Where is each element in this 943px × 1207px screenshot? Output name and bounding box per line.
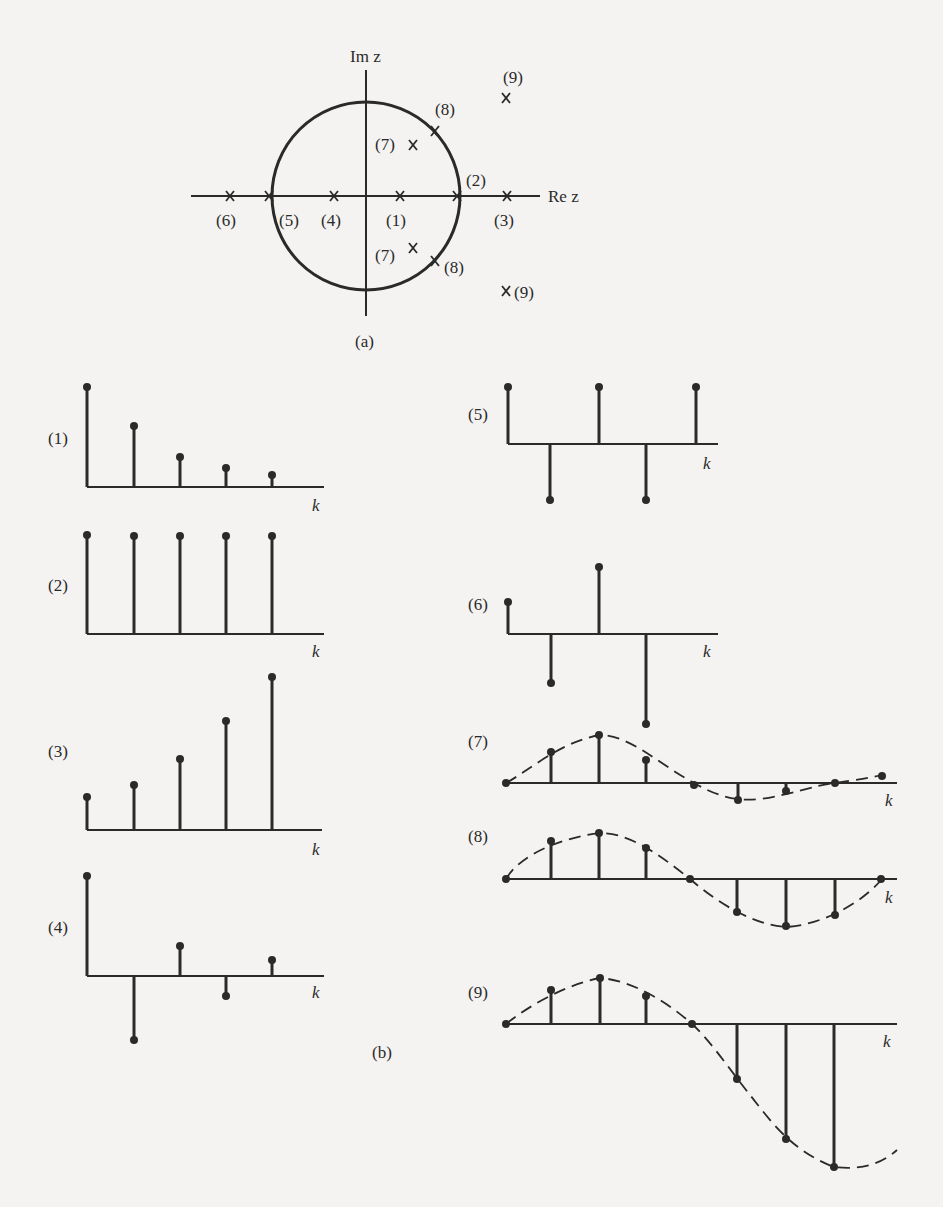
plot-label-3: (3) <box>48 742 68 761</box>
pole-label-9-upper: (9) <box>503 68 523 87</box>
plot-label-4: (4) <box>48 918 68 937</box>
pole-label-8-lower: (8) <box>444 258 464 277</box>
plot-label-7: (7) <box>468 732 488 751</box>
stem-plot-9: (9) k <box>468 974 897 1171</box>
k-axis-label: k <box>703 454 711 473</box>
k-axis-label: k <box>312 642 320 661</box>
z-plane-diagram: Im z Re z (a) (1) (2) (3) (4) (5) (6) ( <box>191 47 579 351</box>
pole-label-2: (2) <box>466 171 486 190</box>
stem-plot-3: (3) k <box>48 673 322 859</box>
pole-label-6: (6) <box>216 211 236 230</box>
k-axis-label: k <box>312 983 320 1002</box>
caption-b: (b) <box>372 1043 392 1062</box>
pole-label-8-upper: (8) <box>435 100 455 119</box>
stem-plot-4: (4) k <box>48 872 324 1044</box>
plot-label-5: (5) <box>468 405 488 424</box>
k-axis-label: k <box>885 791 893 810</box>
im-axis-label: Im z <box>350 47 381 66</box>
plot-label-6: (6) <box>468 595 488 614</box>
plot-label-9: (9) <box>468 983 488 1002</box>
pole-9-lower <box>502 286 510 296</box>
k-axis-label: k <box>312 840 320 859</box>
stem-plot-5: (5) k <box>468 383 718 504</box>
pole-label-4: (4) <box>321 211 341 230</box>
plot-label-8: (8) <box>468 827 488 846</box>
plot-label-1: (1) <box>48 429 68 448</box>
stem-plot-2: (2) k <box>48 531 324 661</box>
stem-plot-6: (6) k <box>468 563 718 728</box>
k-axis-label: k <box>703 642 711 661</box>
k-axis-label: k <box>885 888 893 907</box>
dashed-envelope <box>506 735 882 800</box>
pole-label-3: (3) <box>494 211 514 230</box>
dashed-envelope <box>506 978 897 1168</box>
pole-markers <box>226 93 511 296</box>
pole-label-9-lower: (9) <box>514 283 534 302</box>
plot-label-2: (2) <box>48 576 68 595</box>
pole-label-1: (1) <box>386 211 406 230</box>
pole-label-7-lower: (7) <box>375 246 395 265</box>
re-axis-label: Re z <box>548 187 579 206</box>
pole-7-lower <box>409 243 417 253</box>
pole-7-upper <box>409 140 417 150</box>
pole-label-5: (5) <box>279 211 299 230</box>
stem-plot-7: (7) k <box>468 731 897 810</box>
stem-plot-8: (8) k <box>468 827 897 930</box>
stem-plot-1: (1) k <box>48 383 324 515</box>
pole-9-upper <box>502 93 510 103</box>
figure-canvas: Im z Re z (a) (1) (2) (3) (4) (5) (6) ( <box>0 0 943 1207</box>
pole-label-7-upper: (7) <box>375 135 395 154</box>
k-axis-label: k <box>312 496 320 515</box>
k-axis-label: k <box>883 1032 891 1051</box>
caption-a: (a) <box>355 332 374 351</box>
